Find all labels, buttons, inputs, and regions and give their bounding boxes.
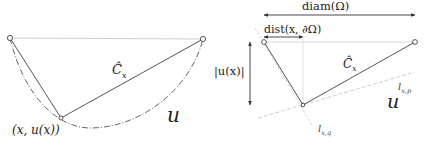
c-hat: Ĉ	[112, 62, 122, 77]
left-point-label: (x, u(x))	[12, 124, 60, 136]
line-q-label: lx,q	[318, 124, 331, 137]
left-endpoint-right	[262, 40, 267, 45]
left-curve-label: Ĉx	[112, 63, 126, 80]
left-endpoint	[7, 35, 12, 40]
height-label: |u(x)|	[214, 66, 245, 78]
left-segment-right	[264, 42, 303, 105]
right-curve-label: Ĉx	[343, 58, 356, 73]
dist-label: dist(x, ∂Ω)	[264, 24, 321, 35]
left-set-label: u	[167, 105, 180, 125]
right-set-label: u	[387, 92, 399, 111]
diagram-canvas	[0, 0, 424, 145]
left-segment	[10, 38, 61, 118]
vertex-point-right	[301, 103, 305, 107]
line-p-label: lx,p	[398, 82, 411, 95]
right-segment	[61, 39, 203, 118]
c-hat-right: Ĉ	[343, 57, 352, 71]
c-hat-sub: x	[122, 71, 127, 80]
right-endpoint	[200, 36, 205, 41]
top-chord	[10, 38, 203, 39]
l-q-sub: x,q	[321, 129, 331, 137]
right-endpoint-right	[413, 40, 418, 45]
l-p-sub: x,p	[401, 87, 411, 95]
diam-label: diam(Ω)	[302, 1, 349, 13]
c-hat-right-sub: x	[352, 64, 356, 73]
vertex-point	[59, 116, 63, 120]
